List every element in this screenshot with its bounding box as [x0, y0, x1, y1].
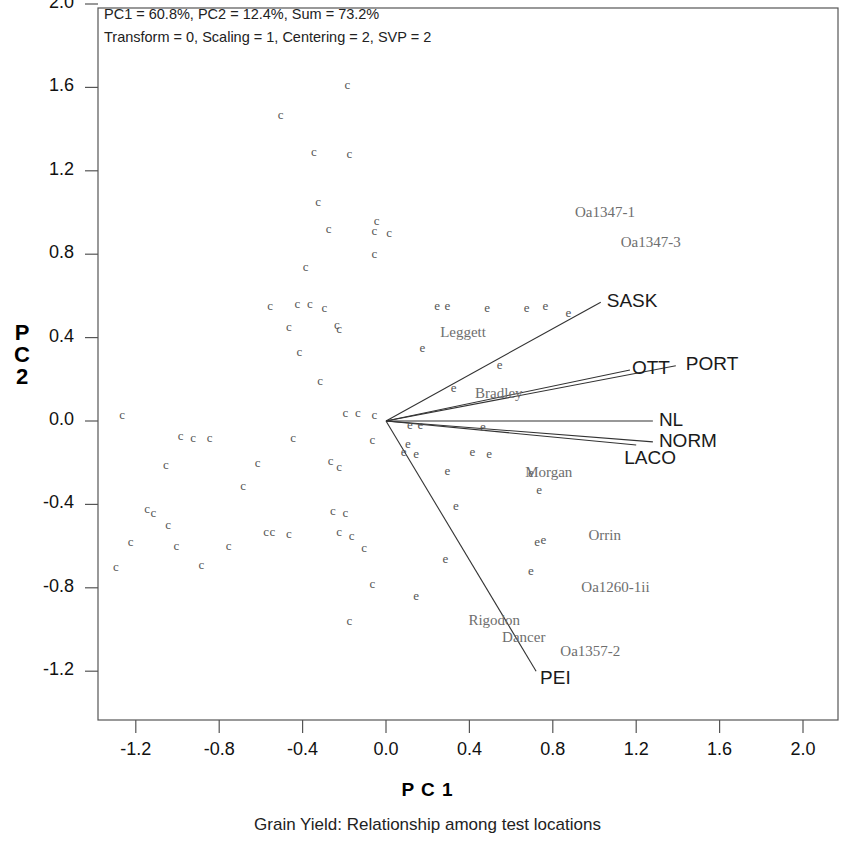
scatter-point-21: c — [286, 320, 292, 333]
scatter-point-52: c — [240, 479, 246, 492]
genotype-label-2: Leggett — [440, 324, 486, 341]
y-axis-title-char-2: 2 — [8, 366, 36, 388]
scatter-point-32: c — [119, 408, 125, 421]
scatter-point-50: e — [445, 464, 451, 477]
scatter-point-62: c — [286, 527, 292, 540]
scatter-point-20: e — [565, 306, 571, 319]
scatter-point-1: c — [278, 108, 284, 121]
scatter-point-63: c — [336, 525, 342, 538]
scatter-point-15: e — [434, 299, 440, 312]
scatter-point-33: e — [407, 418, 413, 431]
y-axis-title-char-1: C — [8, 344, 36, 366]
scatter-point-4: c — [315, 195, 321, 208]
scatter-point-58: e — [453, 499, 459, 512]
scatter-point-71: e — [442, 552, 448, 565]
scatter-point-64: c — [349, 529, 355, 542]
scatter-point-30: c — [355, 406, 361, 419]
scatter-point-11: c — [267, 299, 273, 312]
scatter-point-27: c — [317, 374, 323, 387]
scatter-point-68: c — [174, 539, 180, 552]
genotype-label-4: Morgan — [525, 464, 572, 481]
scatter-point-39: c — [290, 431, 296, 444]
scatter-point-75: c — [369, 577, 375, 590]
scatter-point-25: c — [297, 345, 303, 358]
scatter-point-18: e — [524, 301, 530, 314]
scatter-point-8: c — [386, 226, 392, 239]
scatter-point-26: e — [497, 358, 503, 371]
scatter-point-6: c — [326, 222, 332, 235]
scatter-point-38: c — [207, 431, 213, 444]
scatter-point-19: e — [543, 299, 549, 312]
y-tick-label-2: 1.2 — [14, 159, 74, 180]
environment-label-port: PORT — [686, 353, 738, 375]
scatter-point-47: c — [255, 456, 261, 469]
environment-label-pei: PEI — [540, 667, 571, 689]
y-tick-label-5: 0.0 — [14, 409, 74, 430]
genotype-label-6: Oa1260-1ii — [581, 579, 649, 596]
scatter-point-56: c — [330, 504, 336, 517]
x-tick-label-8: 2.0 — [773, 739, 833, 760]
scatter-point-49: c — [336, 460, 342, 473]
chart-caption: Grain Yield: Relationship among test loc… — [0, 815, 855, 835]
y-tick-label-6: -0.4 — [14, 492, 74, 513]
scatter-point-2: c — [311, 145, 317, 158]
y-tick-label-3: 0.8 — [14, 242, 74, 263]
scatter-point-69: c — [226, 539, 232, 552]
scatter-point-24: e — [420, 341, 426, 354]
x-tick-label-2: -0.4 — [273, 739, 333, 760]
scatter-point-43: e — [413, 447, 419, 460]
scatter-point-12: c — [294, 297, 300, 310]
scatter-point-14: c — [322, 301, 328, 314]
scatter-point-28: e — [451, 381, 457, 394]
genotype-label-9: Oa1357-2 — [560, 643, 620, 660]
scatter-point-17: e — [484, 301, 490, 314]
scatter-point-3: c — [347, 147, 353, 160]
scatter-point-45: e — [486, 447, 492, 460]
genotype-label-7: Rigodon — [468, 612, 520, 629]
environment-vector-laco — [386, 421, 636, 445]
environment-label-sask: SASK — [607, 290, 658, 312]
scatter-point-44: e — [470, 445, 476, 458]
scatter-point-31: c — [372, 408, 378, 421]
y-tick-label-8: -1.2 — [14, 659, 74, 680]
scatter-point-77: c — [347, 614, 353, 627]
scatter-point-10: c — [303, 260, 309, 273]
scatter-point-35: e — [480, 420, 486, 433]
scatter-point-37: c — [190, 431, 196, 444]
genotype-label-5: Orrin — [588, 527, 621, 544]
scatter-point-73: c — [199, 558, 205, 571]
environment-vector-norm — [386, 421, 653, 442]
scatter-point-66: e — [540, 533, 546, 546]
scatter-point-70: c — [361, 541, 367, 554]
biplot-chart — [0, 0, 855, 843]
scatter-point-54: c — [144, 502, 150, 515]
scatter-point-23: c — [336, 322, 342, 335]
scatter-point-72: c — [113, 560, 119, 573]
environment-label-laco: LACO — [624, 447, 676, 469]
scatter-point-46: c — [163, 458, 169, 471]
genotype-label-8: Dancer — [502, 629, 545, 646]
environment-label-ott: OTT — [632, 357, 670, 379]
x-tick-label-3: 0.0 — [356, 739, 416, 760]
scatter-point-61: c — [269, 525, 275, 538]
x-tick-label-6: 1.2 — [606, 739, 666, 760]
x-tick-label-5: 0.8 — [523, 739, 583, 760]
scatter-point-42: e — [401, 445, 407, 458]
x-tick-label-4: 0.4 — [439, 739, 499, 760]
scatter-point-36: c — [178, 429, 184, 442]
x-tick-label-7: 1.6 — [690, 739, 750, 760]
x-tick-label-1: -0.8 — [189, 739, 249, 760]
environment-label-nl: NL — [659, 409, 683, 431]
y-tick-label-7: -0.8 — [14, 576, 74, 597]
model-settings-annotation: Transform = 0, Scaling = 1, Centering = … — [104, 29, 431, 45]
scatter-point-76: e — [413, 589, 419, 602]
environment-vector-sask — [386, 302, 601, 421]
scatter-point-60: c — [263, 525, 269, 538]
scatter-point-16: e — [445, 299, 451, 312]
genotype-label-3: Bradley — [475, 385, 522, 402]
scatter-point-29: c — [342, 406, 348, 419]
y-tick-label-1: 1.6 — [14, 75, 74, 96]
scatter-point-67: c — [128, 535, 134, 548]
variance-annotation: PC1 = 60.8%, PC2 = 12.4%, Sum = 73.2% — [104, 6, 379, 22]
scatter-point-13: c — [307, 297, 313, 310]
